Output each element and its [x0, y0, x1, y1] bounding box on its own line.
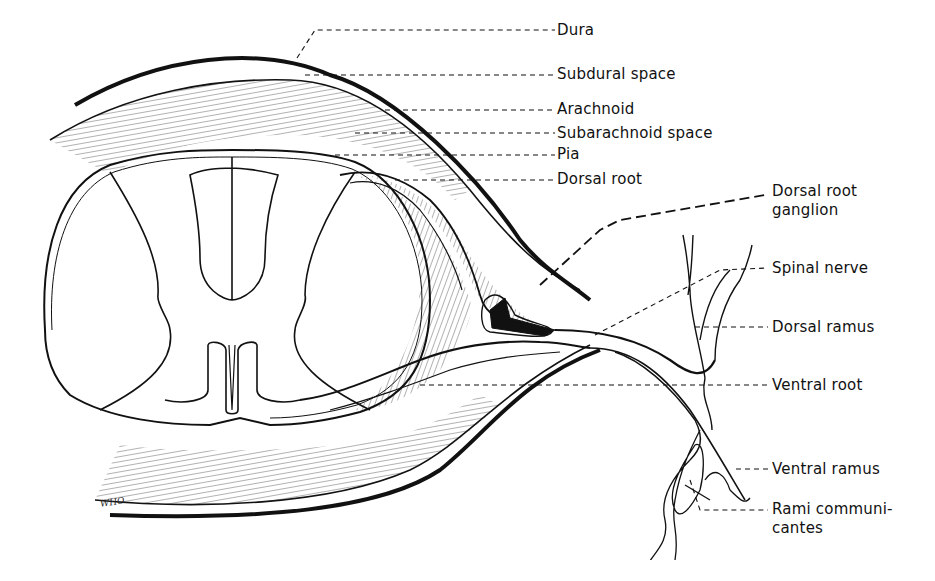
label-dorsal-root-ganglion: Dorsal root ganglion	[772, 182, 857, 220]
label-dorsal-ramus: Dorsal ramus	[772, 319, 875, 336]
label-dorsal-root: Dorsal root	[557, 171, 642, 188]
label-dura: Dura	[557, 22, 594, 39]
pia-spinal-cord-outline	[44, 150, 430, 425]
spinal-nerve	[555, 330, 715, 373]
label-dorsal-root-ganglion-line1: Dorsal root	[772, 182, 857, 201]
subarachnoid-space-lower	[95, 395, 500, 505]
label-spinal-nerve: Spinal nerve	[772, 260, 868, 277]
label-dorsal-root-ganglion-line2: ganglion	[772, 201, 857, 220]
rami-communicantes	[645, 430, 730, 570]
spinal-cord-diagram	[0, 0, 935, 581]
subarachnoid-space-upper	[50, 80, 470, 200]
leader-dura	[297, 30, 555, 58]
label-rami-communicantes-line2: cantes	[772, 519, 893, 538]
gray-matter	[100, 157, 370, 410]
label-ventral-ramus: Ventral ramus	[772, 461, 880, 478]
label-subdural-space: Subdural space	[557, 66, 676, 83]
label-ventral-root: Ventral root	[772, 377, 862, 394]
label-subarachnoid-space: Subarachnoid space	[557, 125, 713, 142]
ventral-ramus-trunk	[590, 348, 745, 500]
leader-dorsal-root-ganglion	[540, 195, 765, 285]
label-rami-communicantes-line1: Rami communi-	[772, 500, 893, 519]
label-rami-communicantes: Rami communi- cantes	[772, 500, 893, 538]
leader-spinal-nerve	[595, 268, 768, 335]
label-arachnoid: Arachnoid	[557, 101, 635, 118]
dorsal-ramus	[683, 235, 752, 378]
label-pia: Pia	[557, 146, 580, 163]
